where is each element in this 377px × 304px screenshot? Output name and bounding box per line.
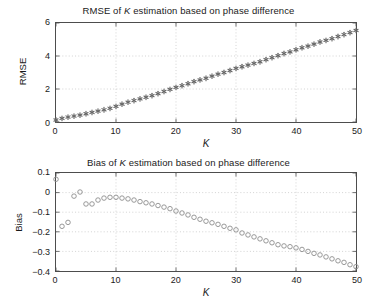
data-point [270, 241, 275, 246]
data-point [330, 257, 335, 262]
data-point [288, 50, 292, 55]
data-point [78, 190, 83, 195]
data-point [144, 95, 148, 100]
data-point [300, 247, 305, 252]
data-point [324, 255, 329, 260]
chart-title-rmse-prefix: RMSE of [83, 5, 124, 16]
x-axis-label-bias: K [55, 287, 357, 298]
x-tick-label: 20 [171, 126, 181, 136]
data-point [318, 253, 323, 258]
data-point [246, 233, 251, 238]
x-tick-label: 40 [292, 126, 302, 136]
data-point [102, 107, 106, 112]
data-point [276, 242, 281, 247]
data-point [192, 79, 196, 84]
data-point [210, 221, 215, 226]
x-tick-label: 30 [231, 275, 241, 285]
data-point [222, 224, 227, 229]
y-tick-label: −0.3 [32, 247, 50, 257]
data-point [162, 205, 167, 210]
data-point [234, 66, 238, 71]
data-point [162, 89, 166, 94]
x-tick-label: 10 [110, 126, 120, 136]
data-point [246, 63, 250, 68]
chart-title-bias: Bias of K estimation based on phase diff… [0, 157, 377, 169]
x-axis-label-rmse: K [55, 138, 357, 149]
data-point [258, 237, 263, 242]
data-point [300, 45, 304, 50]
data-point [126, 100, 130, 105]
data-point [90, 202, 95, 207]
data-point [342, 32, 346, 37]
data-point [84, 111, 88, 116]
data-point [132, 198, 137, 203]
y-tick-label: 4 [45, 51, 50, 61]
y-tick-label: −0.1 [32, 207, 50, 217]
data-point [156, 91, 160, 96]
data-point [138, 199, 143, 204]
data-series-bias [54, 177, 359, 269]
data-point [198, 217, 203, 222]
data-point [336, 34, 340, 39]
x-tick-label: 10 [110, 275, 120, 285]
data-point [156, 203, 161, 208]
data-point [84, 202, 89, 207]
y-axis-ticks-bias: 0.10−0.1−0.2−0.3−0.4 [0, 172, 50, 272]
plot-area-bias [55, 172, 357, 272]
y-tick-label: −0.2 [32, 227, 50, 237]
data-point [252, 235, 257, 240]
data-point [120, 196, 125, 201]
data-point [336, 259, 341, 264]
data-point [312, 251, 317, 256]
data-point [168, 206, 173, 211]
data-point [180, 83, 184, 88]
data-point [60, 116, 64, 121]
data-point [114, 104, 118, 109]
chart-title-bias-prefix: Bias of [87, 157, 119, 168]
data-point [348, 262, 353, 267]
data-point [348, 30, 352, 35]
chart-title-bias-suffix: estimation based on phase difference [126, 157, 290, 168]
y-tick-label: −0.4 [32, 267, 50, 277]
data-point [252, 61, 256, 66]
y-tick-label: 0.1 [37, 167, 50, 177]
data-point [150, 93, 154, 98]
y-tick-label: 2 [45, 84, 50, 94]
data-point [258, 59, 262, 64]
data-point [216, 222, 221, 227]
x-tick-label: 20 [171, 275, 181, 285]
data-point [72, 194, 77, 199]
data-point [108, 195, 113, 200]
data-point [294, 246, 299, 251]
chart-panel-rmse: RMSE of K estimation based on phase diff… [0, 0, 377, 152]
x-tick-label: 30 [231, 126, 241, 136]
data-point [228, 68, 232, 73]
chart-title-rmse-suffix: estimation based on phase difference [130, 5, 294, 16]
data-point [96, 109, 100, 114]
data-point [168, 87, 172, 92]
data-point [108, 106, 112, 111]
data-point [180, 211, 185, 216]
data-point [342, 260, 347, 265]
data-point [78, 113, 82, 118]
data-point [72, 114, 76, 119]
data-point [294, 47, 298, 52]
plot-svg-bias [56, 173, 356, 271]
data-point [132, 98, 136, 103]
data-point [324, 38, 328, 43]
plot-area-rmse [55, 22, 357, 123]
x-tick-label: 50 [352, 275, 362, 285]
data-point [54, 177, 59, 182]
figure-container: RMSE of K estimation based on phase diff… [0, 0, 377, 304]
data-point [144, 201, 149, 206]
data-point [60, 224, 65, 229]
data-point [204, 219, 209, 224]
y-tick-label: 0 [45, 118, 50, 128]
data-point [198, 78, 202, 83]
data-point [66, 115, 70, 120]
data-point [216, 72, 220, 77]
x-tick-label: 40 [292, 275, 302, 285]
data-point [222, 70, 226, 75]
data-point [192, 215, 197, 220]
data-point [270, 55, 274, 60]
